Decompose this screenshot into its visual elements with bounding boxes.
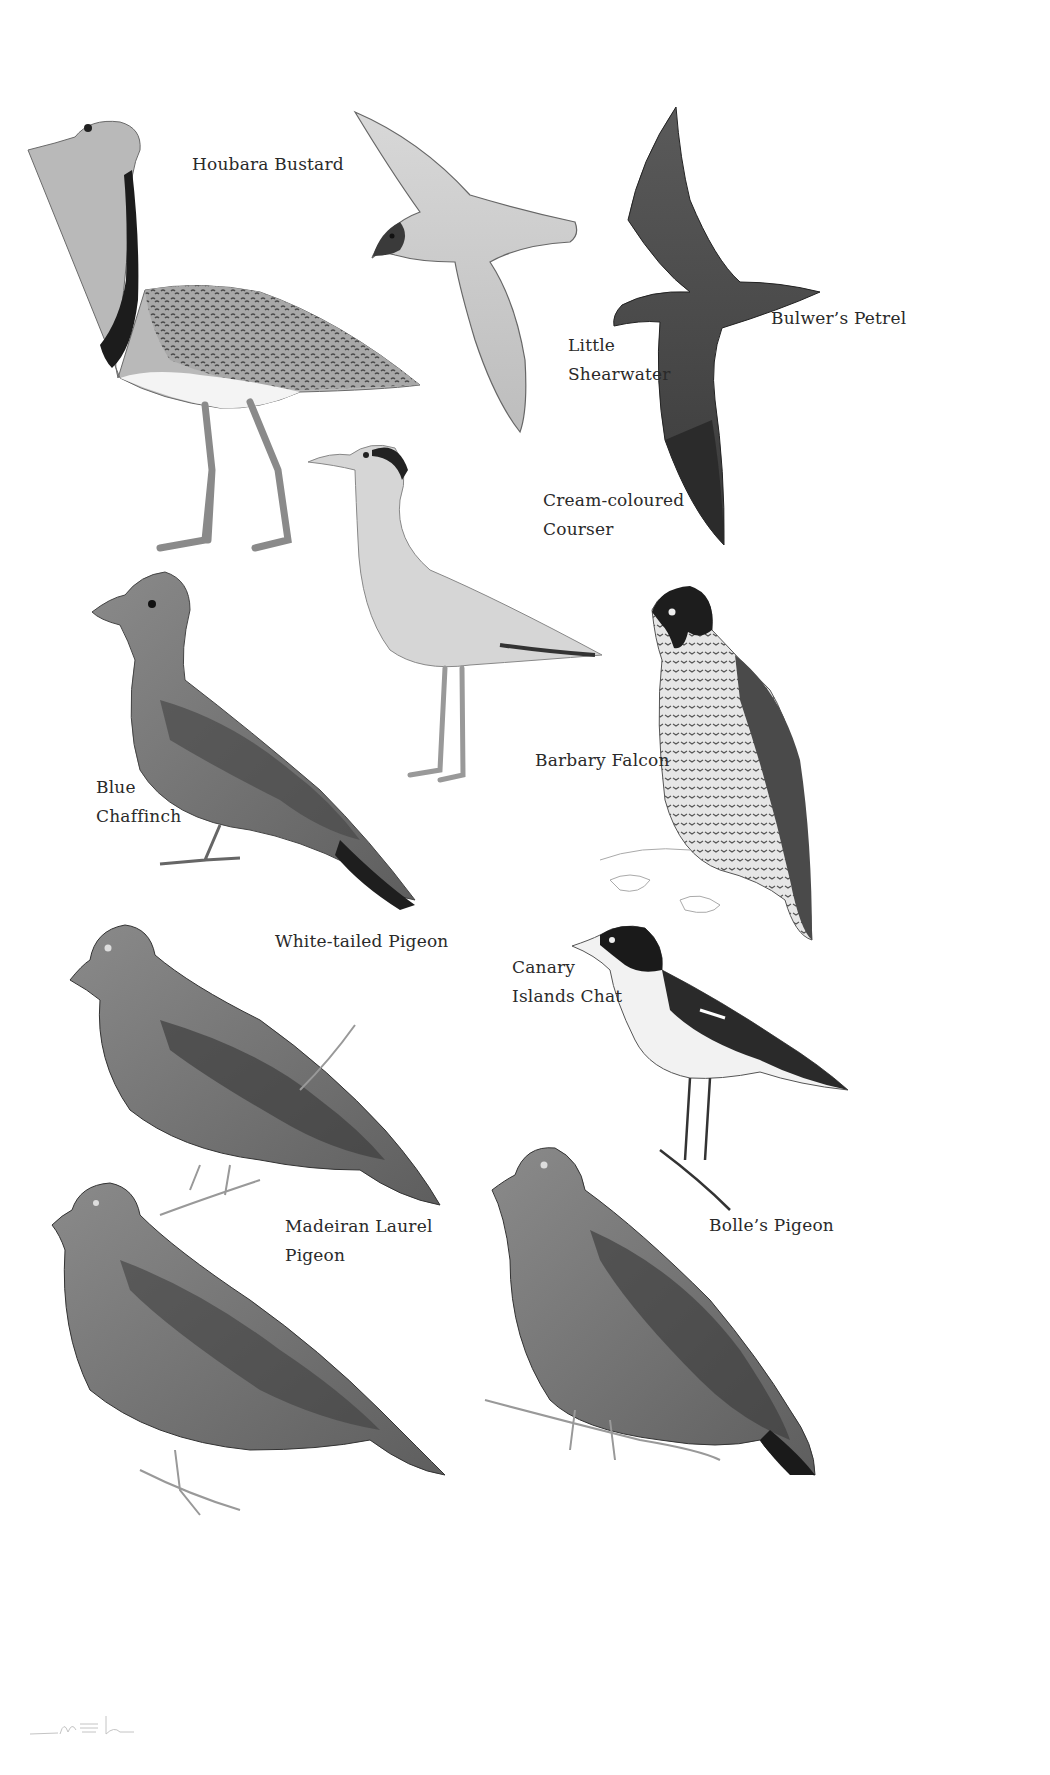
label-cream-coloured-courser: Cream-coloured Courser [543, 486, 684, 544]
label-houbara-bustard: Houbara Bustard [192, 150, 344, 179]
label-bulwers-petrel: Bulwer’s Petrel [771, 304, 906, 333]
label-canary-islands-chat: Canary Islands Chat [512, 953, 622, 1011]
label-barbary-falcon: Barbary Falcon [535, 746, 670, 775]
artist-signature [28, 1712, 138, 1742]
label-bolles-pigeon: Bolle’s Pigeon [709, 1211, 834, 1240]
label-little-shearwater: Little Shearwater [568, 331, 671, 389]
label-white-tailed-pigeon: White-tailed Pigeon [275, 927, 449, 956]
bird-plate: Houbara Bustard Little Shearwater Bulwer… [0, 0, 1050, 1775]
label-blue-chaffinch: Blue Chaffinch [96, 773, 181, 831]
bolles-pigeon-illustration [485, 1148, 815, 1475]
illustrations [0, 0, 1050, 1775]
label-madeiran-laurel-pigeon: Madeiran Laurel Pigeon [285, 1212, 433, 1270]
white-tailed-pigeon-illustration [70, 925, 440, 1215]
blue-chaffinch-illustration [92, 572, 415, 910]
